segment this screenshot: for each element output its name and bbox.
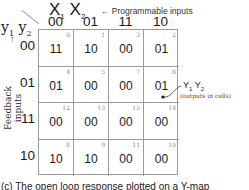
outputs-callout-label: Y1 Y2 [183, 80, 204, 92]
outputs-in-cells-note: (outputs in cells) [180, 92, 231, 99]
Y2-subscript: 2 [201, 86, 204, 92]
figure-caption: (c) The open loop response plotted on a … [1, 181, 209, 190]
Y1-subscript: 1 [189, 86, 192, 92]
